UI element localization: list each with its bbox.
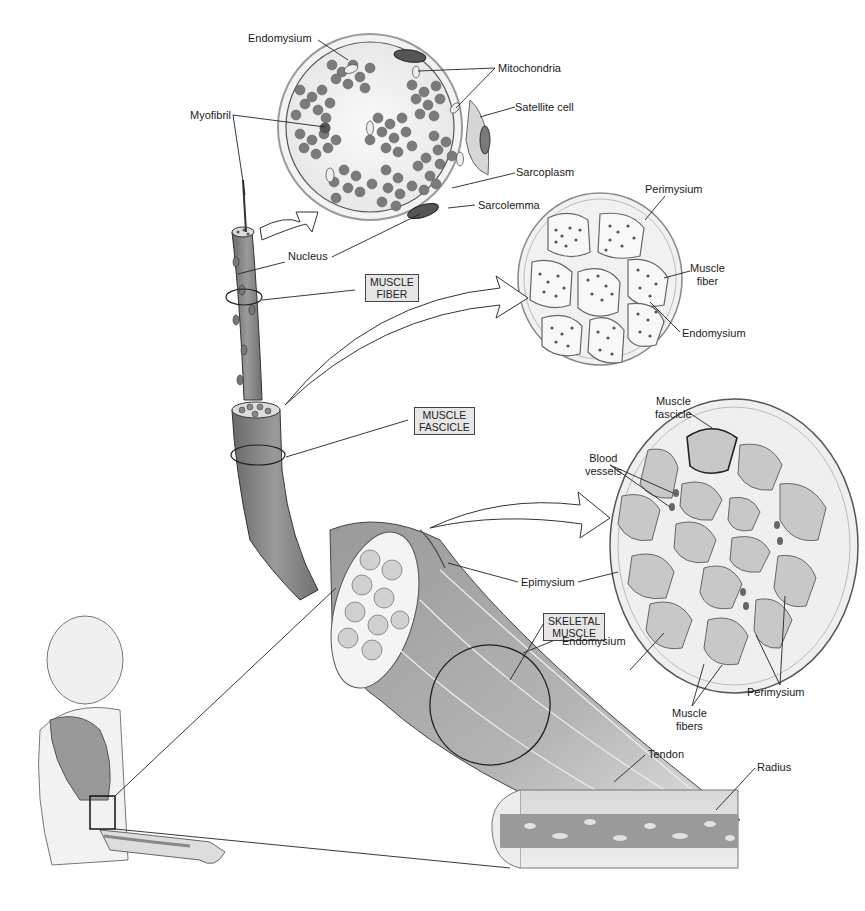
label-line: vessels	[585, 465, 622, 478]
human-figure	[39, 616, 226, 865]
level-box-muscle-fiber: MUSCLE FIBER	[365, 274, 419, 302]
label-line: fiber	[690, 275, 725, 288]
muscle-cross-section	[610, 399, 858, 693]
label-line: Muscle	[672, 707, 707, 720]
label-nucleus: Nucleus	[288, 250, 328, 263]
label-endomysium-fiber: Endomysium	[248, 32, 312, 45]
label-endomysium-fascicle: Endomysium	[682, 327, 746, 340]
muscle-structure-diagram: Endomysium Mitochondria Myofibril Satell…	[0, 0, 865, 911]
label-epimysium: Epimysium	[521, 576, 575, 589]
label-line: Muscle	[690, 262, 725, 275]
label-line: fascicle	[655, 408, 692, 421]
label-tendon: Tendon	[648, 748, 684, 761]
level-box-muscle-fascicle: MUSCLE FASCICLE	[414, 407, 475, 435]
label-muscle-fibers: Muscle fibers	[672, 707, 707, 733]
muscle-fascicle-drawing	[231, 402, 318, 600]
label-sarcoplasm: Sarcoplasm	[516, 166, 574, 179]
radius-bone-drawing	[492, 790, 738, 868]
label-sarcolemma: Sarcolemma	[478, 199, 540, 212]
level-box-line: MUSCLE	[419, 409, 470, 421]
muscle-fiber-drawing	[226, 180, 262, 400]
label-radius: Radius	[757, 761, 791, 774]
label-blood-vessels: Blood vessels	[585, 452, 622, 478]
label-perimysium-muscle: Perimysium	[747, 686, 804, 699]
label-line: Blood	[585, 452, 622, 465]
fascicle-cross-section	[518, 193, 682, 365]
label-endomysium-muscle: Endomysium	[562, 635, 626, 648]
label-mitochondria: Mitochondria	[498, 62, 561, 75]
label-muscle-fiber: Muscle fiber	[690, 262, 725, 288]
level-box-line: FASCICLE	[419, 421, 470, 433]
level-box-line: MUSCLE	[370, 276, 414, 288]
level-box-line: FIBER	[370, 288, 414, 300]
label-muscle-fascicle: Muscle fascicle	[655, 395, 692, 421]
label-line: Muscle	[655, 395, 692, 408]
label-line: fibers	[672, 720, 707, 733]
label-perimysium-fascicle: Perimysium	[645, 183, 702, 196]
label-satellite-cell: Satellite cell	[515, 101, 574, 114]
fiber-cross-section	[278, 34, 490, 222]
level-box-line: SKELETAL	[548, 615, 600, 627]
diagram-artwork	[0, 0, 865, 911]
label-myofibril: Myofibril	[190, 109, 231, 122]
